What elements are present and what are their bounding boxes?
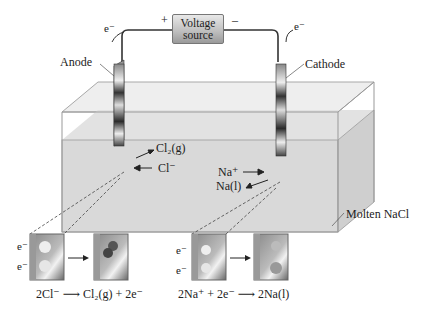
electron-label-right: e⁻ bbox=[294, 20, 305, 33]
anode-reaction: 2Cl⁻ ⟶ Cl₂(g) + 2e⁻ bbox=[36, 288, 143, 301]
inset-e-label-4: e⁻ bbox=[176, 264, 187, 277]
inset-e-label-2: e⁻ bbox=[17, 260, 28, 273]
anode-inset-before bbox=[30, 234, 64, 280]
na-liquid-label: Na(l) bbox=[216, 180, 241, 193]
cathode-inset-after bbox=[254, 234, 288, 280]
anode-label: Anode bbox=[60, 56, 92, 69]
anode-inset-after bbox=[94, 234, 128, 280]
voltage-source: Voltage source bbox=[172, 14, 224, 44]
electron-label-left: e⁻ bbox=[104, 22, 115, 35]
na-plus-label: Na⁺ bbox=[218, 166, 238, 179]
inset-e-label-1: e⁻ bbox=[17, 240, 28, 253]
minus-terminal: – bbox=[232, 14, 238, 27]
voltage-source-line2: source bbox=[173, 29, 223, 41]
cathode-plate bbox=[276, 64, 286, 156]
cathode-reaction: 2Na⁺ + 2e⁻ ⟶ 2Na(l) bbox=[178, 288, 289, 301]
anode-plate bbox=[114, 64, 124, 146]
cl-minus-label: Cl⁻ bbox=[158, 162, 176, 175]
cl2-label: Cl₂(g) bbox=[156, 142, 186, 155]
cathode-label: Cathode bbox=[305, 58, 345, 71]
tank bbox=[62, 82, 374, 232]
electron-arrow-icon-right bbox=[286, 30, 293, 42]
inset-e-label-3: e⁻ bbox=[176, 244, 187, 257]
molten-nacl-label: Molten NaCl bbox=[346, 208, 409, 221]
voltage-source-line1: Voltage bbox=[173, 17, 223, 29]
cathode-inset-before bbox=[192, 234, 226, 280]
plus-terminal: + bbox=[161, 14, 168, 27]
electrolysis-diagram bbox=[0, 0, 421, 316]
